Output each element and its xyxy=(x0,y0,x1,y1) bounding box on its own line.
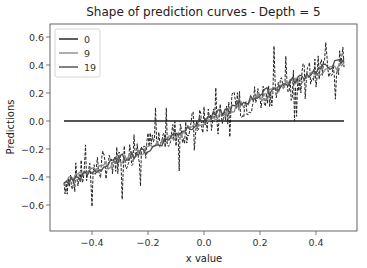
y-tick-label: −0.2 xyxy=(21,144,44,155)
x-tick-label: −0.4 xyxy=(80,237,103,248)
legend-label: 19 xyxy=(84,62,96,73)
y-tick-label: 0.6 xyxy=(29,32,44,43)
y-axis-label: Predictions xyxy=(5,100,16,155)
y-tick-label: −0.6 xyxy=(21,200,44,211)
x-axis-label: x value xyxy=(186,253,222,264)
y-tick-label: 0.2 xyxy=(29,88,44,99)
legend: 0919 xyxy=(55,29,100,77)
legend-label: 9 xyxy=(84,48,90,59)
x-tick-label: 0.2 xyxy=(252,237,267,248)
y-tick-label: −0.4 xyxy=(21,172,44,183)
x-tick-label: 0.0 xyxy=(196,237,211,248)
x-tick-label: 0.4 xyxy=(308,237,323,248)
x-tick-label: −0.2 xyxy=(136,237,159,248)
y-tick-label: 0.0 xyxy=(29,116,44,127)
x-axis-ticks: −0.4−0.20.00.20.4 xyxy=(80,231,323,248)
y-tick-label: 0.4 xyxy=(29,60,44,71)
legend-label: 0 xyxy=(84,34,90,45)
plot-lines xyxy=(64,42,344,206)
y-axis-ticks: −0.6−0.4−0.20.00.20.40.6 xyxy=(21,32,50,211)
chart-canvas: −0.4−0.20.00.20.4 −0.6−0.4−0.20.00.20.40… xyxy=(0,0,367,268)
